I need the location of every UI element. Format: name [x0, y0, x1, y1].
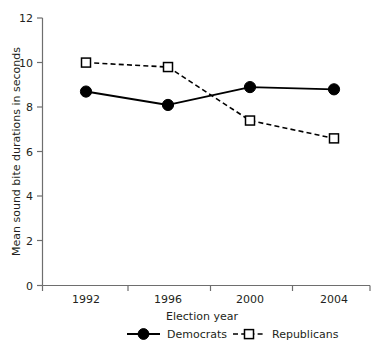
republicans-marker-2000 — [246, 116, 255, 125]
x-tick-label-1992: 1992 — [72, 293, 100, 306]
legend-democrats-label: Democrats — [167, 328, 227, 341]
legend-republicans-label: Republicans — [272, 328, 339, 341]
y-axis-label: Mean sound bite durations in seconds — [10, 47, 23, 256]
republicans-marker-1992 — [82, 58, 91, 67]
x-tick-label-1996: 1996 — [154, 293, 182, 306]
legend-republicans-marker-icon — [245, 330, 254, 339]
x-tick-label-2000: 2000 — [236, 293, 264, 306]
legend-democrats-marker-icon — [138, 329, 149, 340]
y-tick-label-4: 4 — [26, 190, 33, 203]
republicans-marker-2004 — [330, 134, 339, 143]
republicans-marker-1996 — [164, 63, 173, 72]
democrats-marker-1992 — [80, 86, 91, 97]
democrats-marker-2004 — [328, 84, 339, 95]
democrats-marker-1996 — [162, 99, 173, 110]
x-tick-label-2004: 2004 — [320, 293, 348, 306]
y-tick-label-12: 12 — [19, 12, 33, 25]
legend-item-democrats: Democrats — [127, 328, 227, 341]
democrats-marker-2000 — [244, 82, 255, 93]
x-axis-label: Election year — [166, 310, 238, 323]
y-tick-label-8: 8 — [26, 101, 33, 114]
line-chart: 12 10 8 6 4 2 0 Mean sound bite duration… — [0, 0, 388, 348]
y-tick-label-6: 6 — [26, 146, 33, 159]
chart-canvas: 12 10 8 6 4 2 0 Mean sound bite duration… — [0, 0, 388, 348]
y-tick-label-0: 0 — [26, 280, 33, 293]
y-tick-label-2: 2 — [26, 235, 33, 248]
legend-item-republicans: Republicans — [233, 328, 339, 341]
